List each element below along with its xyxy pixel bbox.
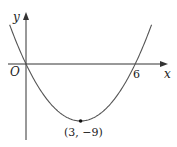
parabola-figure: y x O 6 (3, −9) <box>0 0 177 147</box>
y-axis-arrow-icon <box>23 12 29 20</box>
x-tick-label-6: 6 <box>133 68 140 81</box>
y-axis-label: y <box>12 10 20 24</box>
chart-canvas: y x O 6 (3, −9) <box>0 0 177 147</box>
origin-label: O <box>10 65 20 79</box>
vertex-label: (3, −9) <box>64 126 103 139</box>
parabola-curve <box>10 25 152 121</box>
vertex-point <box>79 119 83 123</box>
x-axis-label: x <box>164 67 171 81</box>
